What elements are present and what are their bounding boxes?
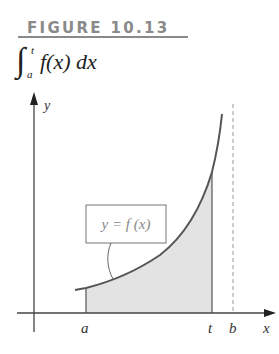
tick-label-b: b <box>229 320 237 336</box>
x-axis-label: x <box>262 320 270 336</box>
curve-label: y = f (x) <box>100 216 151 233</box>
tick-label-a: a <box>81 320 89 336</box>
integral-graph: y = f (x) y x a t b <box>0 0 279 354</box>
curve-label-leader <box>108 243 113 279</box>
y-axis-arrow-icon <box>30 92 38 105</box>
y-axis-label: y <box>42 98 51 113</box>
x-axis-arrow-icon <box>264 309 276 317</box>
tick-label-t: t <box>208 320 213 336</box>
